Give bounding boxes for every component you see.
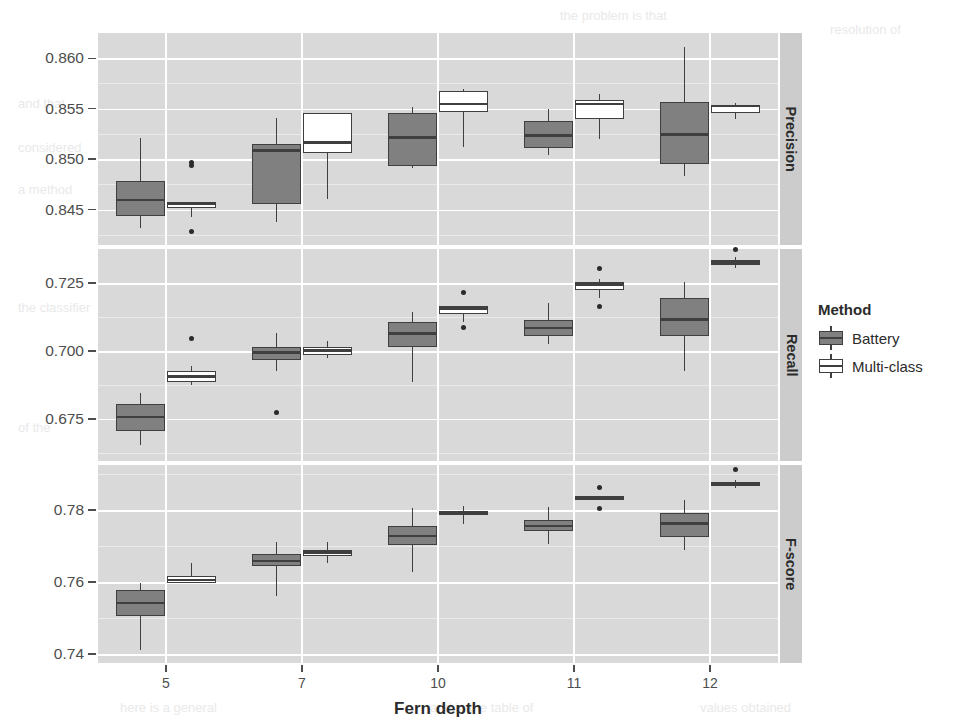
box-precision-7-multiclass-median <box>303 141 352 144</box>
x-axis-tick-label: 7 <box>272 676 332 690</box>
box-f-score-5-battery-median <box>116 602 165 605</box>
legend-label: Battery <box>852 331 900 346</box>
box-recall-7-multiclass-median <box>303 349 352 352</box>
y-axis-tick-mark <box>88 209 96 210</box>
y-axis-tick-label: 0.845 <box>45 202 84 218</box>
box-precision-5-battery-median <box>116 199 165 202</box>
page-bleed-text: resolution of <box>830 22 901 37</box>
y-axis-tick-mark <box>88 158 96 159</box>
legend-key-multiclass <box>818 353 844 379</box>
y-axis-tick-label: 0.76 <box>54 574 84 590</box>
legend-item-multiclass[interactable]: Multi-class <box>818 352 923 380</box>
box-precision-12-multiclass-median <box>711 105 760 108</box>
panel-strip-recall: Recall <box>780 249 802 461</box>
box-precision-10-multiclass-median <box>439 103 488 106</box>
box-f-score-7-multiclass-median <box>303 551 352 554</box>
box-recall-7-battery-outlier <box>274 410 279 415</box>
y-axis-tick-label: 0.700 <box>45 343 84 359</box>
box-f-score-10-battery-median <box>388 535 437 538</box>
page-bleed-text: a method <box>18 182 72 197</box>
box-precision-5-multiclass-median <box>167 203 216 206</box>
legend-key-battery <box>818 325 844 351</box>
y-axis-tick-mark <box>88 509 96 510</box>
box-precision-11-battery-median <box>524 134 573 137</box>
gridline-x-major <box>301 249 303 461</box>
box-f-score-11-battery-median <box>524 525 573 528</box>
y-axis-tick-mark <box>88 653 96 654</box>
gridline-x-major <box>437 465 439 663</box>
legend-title: Method <box>818 302 923 317</box>
box-f-score-10-multiclass-median <box>439 512 488 515</box>
box-precision-11-multiclass-median <box>575 103 624 106</box>
y-axis-tick-label: 0.855 <box>45 101 84 117</box>
panel-strip-label: F-score <box>784 538 799 590</box>
panel-strip-precision: Precision <box>780 33 802 245</box>
gridline-x-major <box>165 33 167 245</box>
x-axis-tick-mark <box>437 665 438 672</box>
box-recall-12-multiclass-outlier <box>733 247 738 252</box>
gridline-x-major <box>709 465 711 663</box>
box-f-score-5-multiclass-median <box>167 579 216 582</box>
gridline-x-major <box>709 33 711 245</box>
box-precision-12-battery-median <box>660 133 709 136</box>
gridline-x-major <box>437 249 439 461</box>
box-recall-5-battery-median <box>116 416 165 419</box>
y-axis-tick-mark <box>88 418 96 419</box>
box-recall-12-battery <box>660 298 709 336</box>
box-precision-7-battery <box>252 144 301 205</box>
box-recall-10-battery-median <box>388 332 437 335</box>
boxplot-figure: the problem is thatresolution ofand that… <box>0 0 964 725</box>
y-axis-tick-label: 0.725 <box>45 275 84 291</box>
box-f-score-11-multiclass-median <box>575 497 624 500</box>
gridline-x-major <box>165 249 167 461</box>
box-recall-10-multiclass-median <box>439 307 488 310</box>
box-f-score-7-battery-median <box>252 560 301 563</box>
box-recall-11-multiclass-outlier <box>597 304 602 309</box>
y-axis-tick-mark <box>88 282 96 283</box>
box-precision-7-battery-median <box>252 149 301 152</box>
box-f-score-12-multiclass-median <box>711 483 760 486</box>
x-axis-tick-mark <box>165 665 166 672</box>
x-axis-tick-label: 5 <box>136 676 196 690</box>
legend-label: Multi-class <box>852 359 923 374</box>
legend-item-battery[interactable]: Battery <box>818 324 923 352</box>
y-axis-tick-label: 0.78 <box>54 502 84 518</box>
box-recall-12-battery-median <box>660 318 709 321</box>
page-bleed-text: the classifier <box>18 300 90 315</box>
box-f-score-11-multiclass-outlier <box>597 506 602 511</box>
box-recall-7-battery-median <box>252 351 301 354</box>
box-f-score-7-battery-whisker <box>276 542 278 596</box>
x-axis-tick-label: 11 <box>544 676 604 690</box>
x-axis-tick-label: 10 <box>408 676 468 690</box>
box-precision-10-battery <box>388 113 437 165</box>
x-axis-tick-mark <box>709 665 710 672</box>
gridline-x-major <box>573 465 575 663</box>
box-recall-10-battery <box>388 322 437 346</box>
y-axis-tick-label: 0.860 <box>45 50 84 66</box>
panel-strip-label: Recall <box>784 334 799 377</box>
gridline-x-major <box>437 33 439 245</box>
y-axis-tick-mark <box>88 58 96 59</box>
box-recall-11-multiclass-median <box>575 283 624 286</box>
gridline-x-major <box>573 33 575 245</box>
legend: MethodBatteryMulti-class <box>818 302 923 380</box>
x-axis-title: Fern depth <box>98 700 778 717</box>
y-axis-tick-label: 0.74 <box>54 646 84 662</box>
panel-strip-f-score: F-score <box>780 465 802 663</box>
box-recall-11-battery-median <box>524 327 573 330</box>
panel-f-score <box>98 465 778 663</box>
box-recall-5-multiclass-median <box>167 375 216 378</box>
box-precision-5-multiclass-outlier <box>189 229 194 234</box>
y-axis-tick-mark <box>88 108 96 109</box>
box-recall-10-multiclass-outlier <box>461 290 466 295</box>
gridline-x-major <box>301 465 303 663</box>
page-bleed-text: the problem is that <box>560 8 667 23</box>
box-precision-7-multiclass <box>303 113 352 152</box>
box-precision-10-battery-median <box>388 136 437 139</box>
x-axis-tick-mark <box>573 665 574 672</box>
y-axis-tick-label: 0.850 <box>45 151 84 167</box>
box-f-score-12-battery-median <box>660 522 709 525</box>
box-recall-7-battery <box>252 347 301 361</box>
legend-key-median <box>819 337 843 339</box>
gridline-x-major <box>709 249 711 461</box>
